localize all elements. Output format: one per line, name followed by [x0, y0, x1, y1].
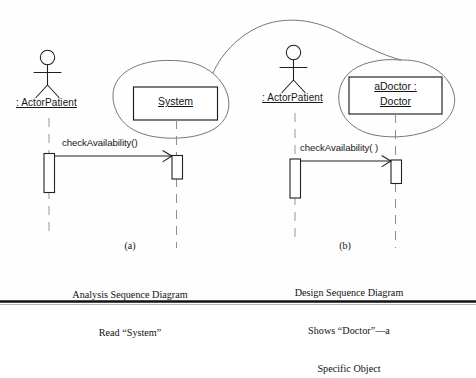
message-label-a: checkAvailability() [62, 138, 138, 149]
caption-b-line-2: Shows “Doctor”—a [249, 325, 449, 338]
object-box-label-a: System [134, 96, 218, 108]
caption-b: Design Sequence Diagram Shows “Doctor”—a… [249, 261, 449, 378]
actor-label-b: : ActorPatient [262, 92, 323, 103]
actor-figure-a [34, 50, 61, 97]
actor-label-a: : ActorPatient [16, 97, 77, 108]
caption-b-line-3: Specific Object [249, 363, 449, 376]
annotation-connector-arc [213, 20, 401, 73]
caption-a: Analysis Sequence Diagram Read “System” [30, 263, 230, 365]
object-box-label-b-line-2: Doctor [349, 96, 442, 108]
activation-bar-object-a [172, 156, 183, 180]
caption-a-line-1: Analysis Sequence Diagram [30, 289, 230, 302]
panel-letter-b: (b) [285, 240, 405, 251]
message-label-b: checkAvailability( ) [300, 143, 378, 154]
activation-bar-actor-b [290, 159, 301, 198]
message-arrow-b [301, 156, 391, 167]
object-box-label-b-line-1: aDoctor : [349, 81, 442, 93]
actor-figure-b [280, 45, 307, 92]
activation-bar-object-b [391, 160, 402, 184]
caption-b-line-1: Design Sequence Diagram [249, 287, 449, 300]
panel-letter-a: (a) [70, 240, 190, 251]
caption-a-line-2: Read “System” [30, 327, 230, 340]
message-arrow-a [55, 151, 172, 162]
activation-bar-actor-a [44, 154, 55, 193]
